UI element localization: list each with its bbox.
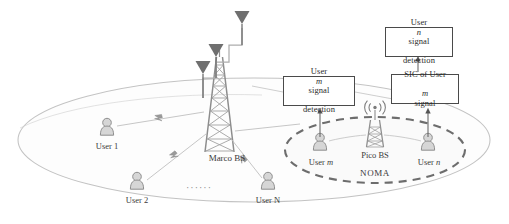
antenna-element-3 xyxy=(235,11,250,45)
figure-canvas: User m signal detection SIC of User m si… xyxy=(0,0,509,224)
box-user-m-line1-suffix: signal xyxy=(303,86,335,96)
box-sic-of-user-m-signal: SIC of User m signal xyxy=(391,74,459,104)
pico-user-m-italic: m xyxy=(327,157,333,167)
pico-base-station-label: Pico BS xyxy=(350,150,400,160)
box-user-m-line1-italic: m xyxy=(316,76,322,86)
pico-user-m-prefix: User xyxy=(309,157,327,167)
box-sic-line1: SIC of User xyxy=(404,70,446,80)
antenna-element-2 xyxy=(209,44,224,78)
box-user-n-signal-detection: User n signal detection xyxy=(385,27,453,57)
macro-base-station-label: Marco BS xyxy=(196,153,258,163)
box-user-n-line1-suffix: signal xyxy=(403,37,435,47)
box-user-m-line2: detection xyxy=(303,105,335,115)
pico-user-n-italic: n xyxy=(436,157,440,167)
box-user-n-line1-italic: n xyxy=(417,27,421,37)
macro-user-2-label: User 2 xyxy=(114,195,160,205)
box-user-n-line2: detection xyxy=(403,56,435,66)
macro-user-n-label: User N xyxy=(245,195,291,205)
pico-user-m-label: User m xyxy=(298,157,344,167)
pico-user-n-prefix: User xyxy=(418,157,436,167)
box-sic-line2-suffix: signal xyxy=(404,99,446,109)
macro-user-1-label: User 1 xyxy=(84,141,130,151)
noma-region-label: NOMA xyxy=(350,168,400,178)
box-user-m-signal-detection: User m signal detection xyxy=(283,76,355,106)
macro-users-ellipsis: ······ xyxy=(186,182,212,193)
box-sic-line2-italic: m xyxy=(422,88,428,98)
pico-user-n-label: User n xyxy=(406,157,452,167)
